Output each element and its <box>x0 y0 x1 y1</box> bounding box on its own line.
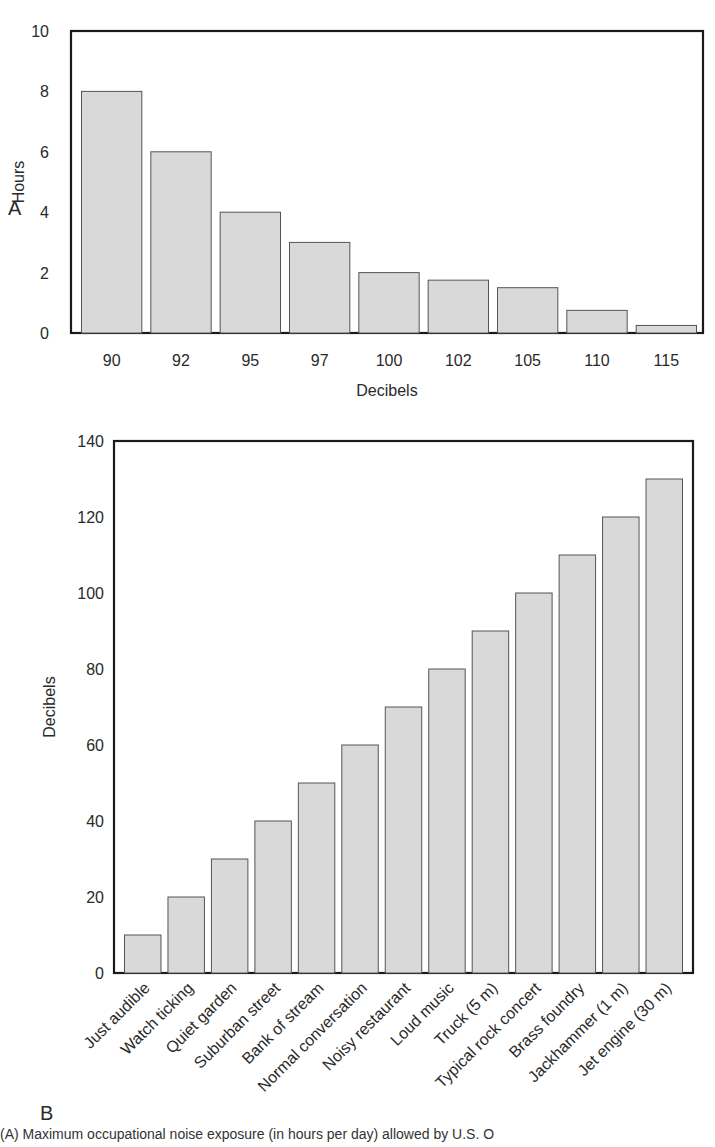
y-tick-label: 40 <box>86 813 104 830</box>
y-tick-label: 20 <box>86 889 104 906</box>
y-tick-label: 10 <box>31 23 49 40</box>
x-tick-label: 102 <box>445 352 472 369</box>
bar <box>342 745 378 973</box>
x-tick-label: 100 <box>376 352 403 369</box>
bar <box>559 555 595 973</box>
panel-b-label: B <box>40 1102 53 1124</box>
bar <box>636 325 696 333</box>
bar <box>125 935 161 973</box>
bar <box>567 310 627 333</box>
x-tick-label: 110 <box>584 352 610 369</box>
y-tick-label: 6 <box>40 144 49 161</box>
figure-caption: (A) Maximum occupational noise exposure … <box>0 1126 715 1142</box>
chart-a-hours-by-decibels: 024681090929597100102105110115HoursDecib… <box>10 23 703 399</box>
bar <box>498 288 558 333</box>
x-tick-label: 97 <box>311 352 329 369</box>
bar <box>290 242 350 333</box>
x-axis-label: Decibels <box>356 382 417 399</box>
bar <box>168 897 204 973</box>
y-tick-label: 8 <box>40 83 49 100</box>
x-tick-label: 115 <box>654 352 680 369</box>
bar <box>603 517 639 973</box>
x-tick-label: 92 <box>172 352 190 369</box>
y-axis-label: Decibels <box>41 676 58 737</box>
x-tick-label: Brass foundry <box>506 979 588 1061</box>
figure: 024681090929597100102105110115HoursDecib… <box>0 0 715 1147</box>
x-tick-label: 90 <box>103 352 121 369</box>
y-tick-label: 80 <box>86 661 104 678</box>
y-tick-label: 0 <box>40 325 49 342</box>
bar <box>255 821 291 973</box>
bar <box>359 273 419 333</box>
bar <box>385 707 421 973</box>
bar <box>429 669 465 973</box>
bar <box>151 152 211 333</box>
bar <box>646 479 682 973</box>
y-tick-label: 100 <box>77 585 104 602</box>
bar <box>220 212 280 333</box>
y-tick-label: 4 <box>40 204 49 221</box>
bar <box>82 91 142 333</box>
y-tick-label: 140 <box>77 433 104 450</box>
y-tick-label: 2 <box>40 265 49 282</box>
panel-a-label: A <box>8 197 22 219</box>
bar <box>516 593 552 973</box>
x-tick-label: 105 <box>514 352 541 369</box>
y-tick-label: 120 <box>77 509 104 526</box>
y-tick-label: 60 <box>86 737 104 754</box>
bar <box>298 783 334 973</box>
chart-b-decibels-by-source: 020406080100120140Just audibleWatch tick… <box>41 433 693 1095</box>
bar <box>211 859 247 973</box>
y-tick-label: 0 <box>95 965 104 982</box>
x-tick-label: 95 <box>241 352 259 369</box>
bar <box>428 280 488 333</box>
bar <box>472 631 508 973</box>
